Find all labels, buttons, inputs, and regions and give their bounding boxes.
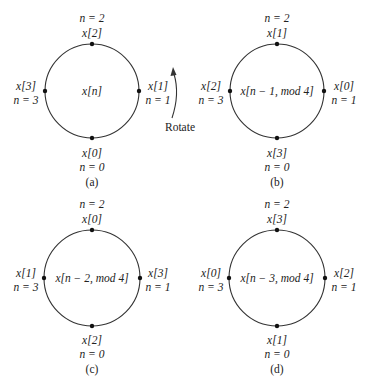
right-n-label: n = 1: [331, 281, 356, 293]
bottom-n-label: n = 0: [264, 348, 289, 360]
panel-c: n = 2 x[0] x[n − 2, mod 4] x[3] n = 1 x[…: [13, 198, 170, 376]
panel-a: n = 2 x[2] x[n] x[1] n = 1 x[3] n = 3 x[…: [13, 12, 170, 189]
right-x-label: x[1]: [147, 80, 168, 92]
bottom-x-label: x[0]: [81, 147, 102, 159]
panel-caption: (b): [270, 176, 284, 189]
bottom-x-label: x[1]: [266, 334, 287, 346]
sample-dot-left: [227, 276, 231, 280]
left-n-label: n = 3: [13, 94, 38, 106]
circular-shift-diagram: n = 2 x[2] x[n] x[1] n = 1 x[3] n = 3 x[…: [0, 0, 369, 384]
left-x-label: x[3]: [15, 80, 36, 92]
top-n-label: n = 2: [79, 12, 104, 24]
sample-dot-bottom: [90, 136, 94, 140]
bottom-n-label: n = 0: [79, 161, 104, 173]
panel-caption: (a): [86, 176, 99, 189]
center-label: x[n − 3, mod 4]: [239, 272, 313, 285]
center-label: x[n − 1, mod 4]: [239, 85, 313, 98]
right-x-label: x[0]: [333, 80, 354, 92]
sample-dot-top: [275, 228, 279, 232]
left-n-label: n = 3: [198, 281, 223, 293]
right-x-label: x[3]: [147, 267, 168, 279]
panel-caption: (c): [86, 363, 99, 376]
left-x-label: x[2]: [200, 80, 221, 92]
sample-dot-bottom: [90, 324, 94, 328]
sample-dot-left: [42, 276, 46, 280]
sample-dot-left: [43, 89, 47, 93]
right-n-label: n = 1: [145, 94, 170, 106]
center-label: x[n]: [81, 85, 102, 97]
right-x-label: x[2]: [333, 267, 354, 279]
top-x-label: x[1]: [266, 27, 287, 39]
right-n-label: n = 1: [145, 281, 170, 293]
bottom-n-label: n = 0: [264, 161, 289, 173]
center-label: x[n − 2, mod 4]: [54, 272, 128, 285]
panel-b: n = 2 x[1] x[n − 1, mod 4] x[0] n = 1 x[…: [198, 12, 356, 189]
left-x-label: x[0]: [200, 267, 221, 279]
sample-dot-left: [228, 89, 232, 93]
sample-dot-right: [137, 89, 141, 93]
rotate-label: Rotate: [165, 121, 195, 133]
top-x-label: x[0]: [81, 213, 102, 225]
sample-dot-top: [275, 42, 279, 46]
panel-d: n = 2 x[3] x[n − 3, mod 4] x[2] n = 1 x[…: [198, 198, 356, 376]
left-n-label: n = 3: [198, 94, 223, 106]
sample-dot-bottom: [275, 136, 279, 140]
sample-dot-right: [322, 89, 326, 93]
sample-dot-bottom: [275, 324, 279, 328]
sample-dot-right: [323, 276, 327, 280]
top-n-label: n = 2: [264, 198, 289, 210]
sample-dot-top: [90, 228, 94, 232]
bottom-x-label: x[2]: [81, 334, 102, 346]
panel-caption: (d): [270, 363, 284, 376]
top-x-label: x[2]: [81, 27, 102, 39]
rotate-arrow-curve: [172, 74, 177, 118]
top-n-label: n = 2: [264, 12, 289, 24]
right-n-label: n = 1: [331, 94, 356, 106]
top-x-label: x[3]: [266, 213, 287, 225]
left-x-label: x[1]: [15, 267, 36, 279]
top-n-label: n = 2: [79, 198, 104, 210]
bottom-n-label: n = 0: [79, 348, 104, 360]
sample-dot-right: [138, 276, 142, 280]
sample-dot-top: [90, 42, 94, 46]
arrow-head-icon: [171, 67, 177, 76]
bottom-x-label: x[3]: [266, 147, 287, 159]
left-n-label: n = 3: [13, 281, 38, 293]
